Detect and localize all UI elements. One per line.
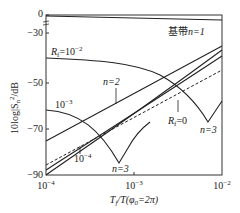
x-tick-label: 10−4 bbox=[37, 179, 55, 191]
line-rf-0-dashed bbox=[46, 70, 222, 165]
y-tick-label: 0 bbox=[38, 8, 43, 19]
curve-baseband-n1 bbox=[46, 16, 222, 20]
chart: 0 −30 −50 −70 −90 10log|Sn2/dB 10−4 10−3… bbox=[0, 0, 240, 213]
line-rf-1e-4 bbox=[46, 56, 222, 170]
y-tick-label: −30 bbox=[27, 27, 43, 38]
annotation-rf-0: Rf=0 bbox=[167, 115, 187, 128]
plot-frame bbox=[46, 15, 222, 175]
x-tick-label: 10−3 bbox=[125, 179, 143, 191]
line-n2 bbox=[46, 50, 222, 175]
x-tick-label: 10−2 bbox=[213, 179, 231, 191]
curve-rf-1e-2 bbox=[46, 58, 222, 122]
x-axis-label: Tf/T(φ0=2π) bbox=[110, 194, 159, 207]
annotation-n2: n=2 bbox=[103, 76, 120, 87]
annotation-baseband: 基带n=1 bbox=[168, 25, 205, 37]
y-axis-label: 10log|Sn2/dB bbox=[8, 82, 22, 134]
y-tick-label: −50 bbox=[27, 77, 43, 88]
annotation-n3-bottom: n=3 bbox=[112, 163, 129, 174]
annotation-rf-1e-4: 10−4 bbox=[74, 152, 92, 164]
y-tick-label: −70 bbox=[27, 123, 43, 134]
annotation-rf-1e-2: Rf=10−2 bbox=[50, 45, 83, 59]
annotation-rf-1e-3: 10−3 bbox=[55, 98, 73, 110]
line-rf-1e-3 bbox=[46, 46, 222, 141]
annotation-n3-right: n=3 bbox=[200, 124, 217, 135]
y-tick-label: −90 bbox=[27, 169, 43, 180]
